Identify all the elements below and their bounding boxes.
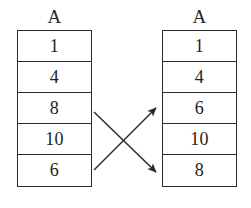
array-after-cell-3: 10: [163, 124, 236, 155]
array-before: A 1 4 8 10 6: [17, 4, 92, 187]
array-after: A 1 4 6 10 8: [162, 4, 237, 187]
array-before-cell-0: 1: [18, 31, 91, 62]
array-after-cell-0: 1: [163, 31, 236, 62]
array-after-header: A: [162, 4, 237, 30]
array-before-cell-1: 4: [18, 62, 91, 93]
arrow-up-right-icon: [94, 108, 156, 170]
diagram-canvas: A 1 4 8 10 6 A 1 4 6 10 8: [0, 0, 251, 208]
array-before-cell-4: 6: [18, 155, 91, 186]
array-before-grid: 1 4 8 10 6: [17, 30, 92, 187]
array-after-cell-4: 8: [163, 155, 236, 186]
array-before-header: A: [17, 4, 92, 30]
array-after-cell-2: 6: [163, 93, 236, 124]
array-before-cell-3: 10: [18, 124, 91, 155]
array-after-cell-1: 4: [163, 62, 236, 93]
arrow-down-right-icon: [94, 112, 156, 172]
array-after-grid: 1 4 6 10 8: [162, 30, 237, 187]
array-before-cell-2: 8: [18, 93, 91, 124]
